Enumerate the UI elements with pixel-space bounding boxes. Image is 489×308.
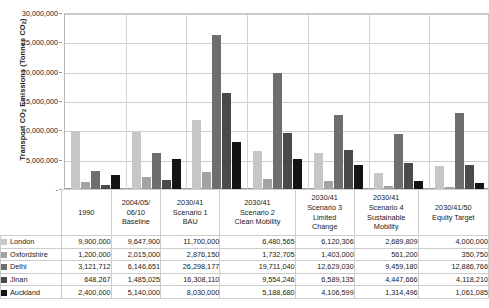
y-axis-tick	[59, 72, 62, 73]
legend-item-delhi: Delhi	[1, 261, 62, 274]
bar-group	[247, 14, 308, 189]
legend-label: Oxfordshire	[10, 250, 48, 259]
bar-london	[192, 120, 201, 189]
plot-frame	[64, 13, 489, 189]
bar-auckland	[232, 142, 241, 189]
data-table: 19902004/05/06/10Baseline2030/41Scenario…	[0, 189, 489, 299]
bar-jinan	[283, 133, 292, 189]
y-axis-tick-label: 20,000,000	[22, 67, 58, 76]
table-header-row: 19902004/05/06/10Baseline2030/41Scenario…	[1, 190, 489, 236]
table-cell-value: 12,886,766	[418, 261, 488, 274]
legend-label: Auckland	[10, 288, 40, 297]
bar-jinan	[162, 180, 171, 189]
bar-group	[186, 14, 247, 189]
plot-area	[64, 13, 489, 189]
bar-london	[132, 132, 141, 189]
bar-delhi	[394, 134, 403, 189]
table-cell-value: 1,485,025	[111, 273, 161, 286]
legend-label: London	[10, 237, 34, 246]
bar-jinan	[222, 93, 231, 189]
table-cell-value: 350,750	[418, 248, 488, 261]
table-cell-value: 6,589,135	[295, 273, 354, 286]
table-cell-value: 9,647,900	[111, 236, 161, 249]
bar-jinan	[465, 165, 474, 189]
table-row: Auckland2,400,0005,140,0008,030,0005,188…	[1, 286, 489, 299]
bar-london	[71, 131, 80, 189]
table-cell-value: 4,000,000	[418, 236, 488, 249]
table-cell-value: 1,314,496	[354, 286, 418, 299]
y-axis-tick	[59, 42, 62, 43]
table-cell-value: 8,030,000	[161, 286, 220, 299]
bar-london	[253, 151, 262, 189]
legend-label: Delhi	[10, 262, 27, 271]
table-cell-value: 19,711,040	[220, 261, 295, 274]
table-cell-value: 2,689,809	[354, 236, 418, 249]
y-axis-tick	[59, 130, 62, 131]
bar-group	[429, 14, 489, 189]
y-axis-tick-label: 10,000,000	[22, 126, 58, 135]
table-cell-value: 1,732,705	[220, 248, 295, 261]
legend-item-auckland: Auckland	[1, 286, 62, 299]
column-header: 2004/05/06/10Baseline	[111, 190, 161, 236]
table-cell-value: 6,480,565	[220, 236, 295, 249]
table-cell-value: 1,200,000	[62, 248, 112, 261]
column-header: 2030/41Scenario 4SustainableMobility	[354, 190, 418, 236]
legend-item-jinan: Jinan	[1, 273, 62, 286]
column-header: 2030/41Scenario 1BAU	[161, 190, 220, 236]
legend-label: Jinan	[10, 275, 27, 284]
bar-auckland	[414, 181, 423, 189]
table-cell-value: 561,200	[354, 248, 418, 261]
table-row: Oxfordshire1,200,0002,015,0002,876,1501,…	[1, 248, 489, 261]
table-cell-value: 5,140,000	[111, 286, 161, 299]
bar-london	[314, 153, 323, 189]
legend-swatch-icon	[1, 239, 7, 245]
table-cell-value: 12,629,030	[295, 261, 354, 274]
table-cell-value: 9,554,246	[220, 273, 295, 286]
bar-auckland	[172, 159, 181, 189]
bar-group	[65, 14, 126, 189]
y-axis-tick-label: 5,000,000	[26, 155, 58, 164]
table-cell-value: 26,298,177	[161, 261, 220, 274]
table-corner-cell	[1, 190, 62, 236]
legend-swatch-icon	[1, 277, 7, 283]
y-axis-tick	[59, 101, 62, 102]
table-cell-value: 1,061,085	[418, 286, 488, 299]
table-row: Delhi3,121,7126,146,65126,298,17719,711,…	[1, 261, 489, 274]
column-header: 2030/41Scenario 3LimitedChange	[295, 190, 354, 236]
bar-group	[126, 14, 187, 189]
y-axis-tick	[59, 160, 62, 161]
table-cell-value: 4,447,666	[354, 273, 418, 286]
table-cell-value: 5,188,680	[220, 286, 295, 299]
bar-london	[374, 173, 383, 189]
table-row: Jinan648,2671,485,02516,308,1109,554,246…	[1, 273, 489, 286]
bar-oxfordshire	[263, 179, 272, 189]
y-axis-tick-label: 25,000,000	[22, 38, 58, 47]
legend-swatch-icon	[1, 290, 7, 296]
bar-jinan	[404, 163, 413, 189]
table-cell-value: 3,121,712	[62, 261, 112, 274]
bar-delhi	[212, 35, 221, 189]
legend-swatch-icon	[1, 264, 7, 270]
table-cell-value: 9,900,000	[62, 236, 112, 249]
bar-london	[435, 166, 444, 189]
legend-swatch-icon	[1, 252, 7, 258]
table-row: London9,900,0009,647,90011,700,0006,480,…	[1, 236, 489, 249]
legend-item-london: London	[1, 236, 62, 249]
table-cell-value: 1,403,000	[295, 248, 354, 261]
bar-oxfordshire	[324, 181, 333, 189]
legend-item-oxfordshire: Oxfordshire	[1, 248, 62, 261]
bar-group	[369, 14, 430, 189]
y-axis-tick	[59, 13, 62, 14]
bar-oxfordshire	[81, 182, 90, 189]
table-cell-value: 2,876,150	[161, 248, 220, 261]
column-header: 2030/41Scenario 2Clean Mobility	[220, 190, 295, 236]
column-header: 2030/41/50Equity Target	[418, 190, 488, 236]
table-cell-value: 6,146,651	[111, 261, 161, 274]
table-cell-value: 648,267	[62, 273, 112, 286]
column-header: 1990	[62, 190, 112, 236]
y-axis-tick-label: 30,000,000	[22, 9, 58, 18]
chart-page: Transport CO2 Emissions (Tonnes CO2) -5,…	[0, 0, 489, 308]
y-axis-labels: -5,000,00010,000,00015,000,00020,000,000…	[0, 0, 62, 189]
bar-oxfordshire	[202, 172, 211, 189]
table-cell-value: 2,400,000	[62, 286, 112, 299]
